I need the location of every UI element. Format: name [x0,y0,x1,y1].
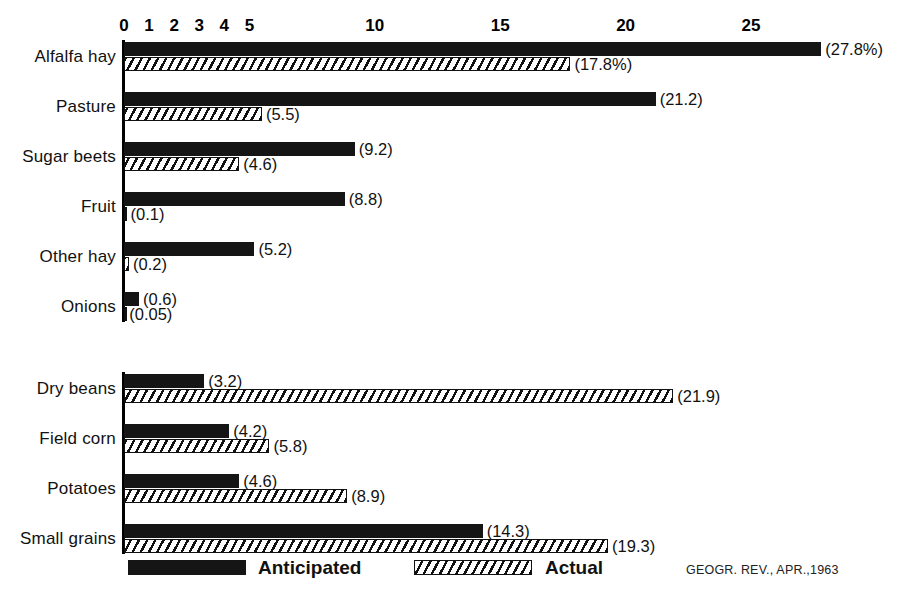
axis-tick-label: 25 [742,16,761,36]
axis-tick-label: 20 [616,16,635,36]
bar-anticipated-2 [124,142,355,156]
bar-value-actual-7: (5.8) [273,437,307,456]
axis-tick-label: 0 [119,16,128,36]
category-label-alfalfa-hay: Alfalfa hay [34,47,116,67]
axis-tick-label: 1 [144,16,153,36]
bar-value-anticipated-9: (14.3) [487,522,530,541]
category-label-other-hay: Other hay [40,247,116,267]
bar-actual-5 [124,307,127,321]
bar-value-actual-9: (19.3) [612,537,655,556]
axis-tick-label: 10 [365,16,384,36]
category-label-dry-beans: Dry beans [37,379,116,399]
bar-actual-1 [124,107,262,121]
legend-swatch-actual [414,560,532,575]
axis-tick-label: 3 [195,16,204,36]
bar-anticipated-6 [124,374,204,388]
category-label-field-corn: Field corn [39,429,116,449]
bar-value-actual-2: (4.6) [243,155,277,174]
legend-label-actual: Actual [545,557,603,579]
bar-value-anticipated-2: (9.2) [359,140,393,159]
x-axis-line-upper [122,40,125,322]
bar-actual-9 [124,539,608,553]
bar-actual-7 [124,439,269,453]
axis-tick-label: 15 [491,16,510,36]
category-label-small-grains: Small grains [20,529,116,549]
category-label-fruit: Fruit [81,197,116,217]
bar-value-actual-6: (21.9) [677,387,720,406]
bar-anticipated-0 [124,42,821,56]
category-label-sugar-beets: Sugar beets [22,147,116,167]
category-label-potatoes: Potatoes [47,479,116,499]
bar-actual-6 [124,389,673,403]
bar-value-actual-0: (17.8%) [574,55,632,74]
bar-actual-3 [124,207,127,221]
bar-value-anticipated-4: (5.2) [258,240,292,259]
bar-value-actual-4: (0.2) [133,255,167,274]
bar-value-anticipated-6: (3.2) [208,372,242,391]
bar-value-anticipated-7: (4.2) [233,422,267,441]
bar-anticipated-8 [124,474,239,488]
legend-swatch-anticipated [128,560,246,575]
category-label-pasture: Pasture [56,97,116,117]
bar-value-actual-8: (8.9) [351,487,385,506]
bar-actual-4 [124,257,129,271]
axis-tick-label: 2 [169,16,178,36]
bar-value-anticipated-8: (4.6) [243,472,277,491]
legend-label-anticipated: Anticipated [258,557,361,579]
bar-value-anticipated-3: (8.8) [349,190,383,209]
bar-actual-2 [124,157,239,171]
bar-value-actual-1: (5.5) [266,105,300,124]
bar-anticipated-1 [124,92,656,106]
source-credit: GEOGR. REV., APR.,1963 [686,563,839,577]
bar-actual-8 [124,489,347,503]
bar-value-actual-5: (0.05) [129,305,172,324]
axis-tick-label: 5 [245,16,254,36]
bar-value-anticipated-1: (21.2) [660,90,703,109]
category-label-onions: Onions [61,297,116,317]
bar-actual-0 [124,57,570,71]
bar-chart: 01234510152025Alfalfa hay(27.8%)(17.8%)P… [0,0,899,610]
bar-value-actual-3: (0.1) [131,205,165,224]
bar-value-anticipated-0: (27.8%) [825,40,883,59]
bar-anticipated-9 [124,524,483,538]
bar-anticipated-7 [124,424,229,438]
axis-tick-label: 4 [220,16,229,36]
